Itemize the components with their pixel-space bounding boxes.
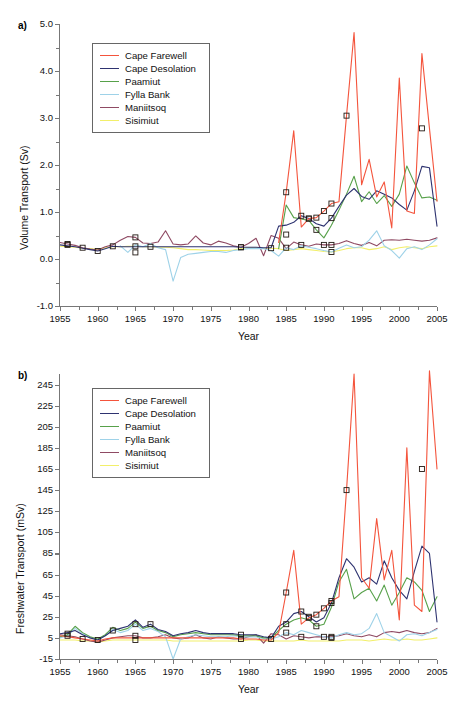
legend-color-swatch-icon <box>100 55 119 56</box>
b-x-tick-label: 2005 <box>416 666 452 677</box>
a-y-tick <box>55 24 59 25</box>
b-x-tick-label: 1995 <box>341 666 383 677</box>
a-x-tick-label: 1955 <box>39 313 81 324</box>
a-y-tick-label: 0.0 <box>12 253 53 264</box>
b-y-tick-label: 165 <box>12 463 53 474</box>
a-x-tick-label: 1965 <box>114 313 156 324</box>
a-y-tick <box>55 165 59 166</box>
a-x-minor-tick <box>267 307 268 310</box>
a-x-tick-label: 1970 <box>152 313 194 324</box>
b-x-minor-tick <box>418 660 419 663</box>
b-y-tick-label: 225 <box>12 400 53 411</box>
b-y-tick <box>55 448 59 449</box>
legend-label: Cape Desolation <box>125 62 196 75</box>
b-x-minor-tick <box>79 660 80 663</box>
observation-marker <box>284 232 289 237</box>
a-x-minor-tick <box>305 307 306 310</box>
b-x-tick <box>362 660 363 664</box>
a-x-tick <box>211 307 212 311</box>
b-x-minor-tick <box>230 660 231 663</box>
b-y-tick <box>55 575 59 576</box>
b-x-minor-tick <box>117 660 118 663</box>
series-line-paamiut <box>60 569 437 639</box>
legend-color-swatch-icon <box>100 400 119 401</box>
legend-label: Cape Farewell <box>125 394 187 407</box>
a-y-axis-line <box>59 24 60 306</box>
b-y-tick <box>55 469 59 470</box>
b-y-tick-label: 145 <box>12 484 53 495</box>
b-y-tick <box>55 511 59 512</box>
b-y-tick-label: 105 <box>12 526 53 537</box>
a-y-tick-label: 4.0 <box>12 65 53 76</box>
a-x-tick <box>135 307 136 311</box>
a-y-tick-label: -1.0 <box>12 300 53 311</box>
legend-label: Cape Desolation <box>125 407 196 420</box>
b-x-minor-tick <box>380 660 381 663</box>
legend-item-cape-desolation[interactable]: Cape Desolation <box>93 62 209 75</box>
b-x-tick <box>437 660 438 664</box>
b-y-tick-label: 245 <box>12 379 53 390</box>
legend-label: Fylla Bank <box>125 433 170 446</box>
legend-item-maniitsoq[interactable]: Maniitsoq <box>93 101 209 114</box>
a-x-minor-tick <box>117 307 118 310</box>
a-y-minor-tick <box>56 95 59 96</box>
b-y-tick-label: 45 <box>12 590 53 601</box>
a-y-tick <box>55 71 59 72</box>
b-x-tick-label: 1970 <box>152 666 194 677</box>
chart-panel-b: b) Freshwater Transport (mSv) Year Cape … <box>0 352 452 703</box>
b-y-tick <box>55 553 59 554</box>
a-y-minor-tick <box>56 283 59 284</box>
legend-label: Maniitsoq <box>125 101 166 114</box>
legend-color-swatch-icon <box>100 439 119 440</box>
a-x-minor-tick <box>418 307 419 310</box>
b-x-minor-tick <box>343 660 344 663</box>
b-x-tick-label: 1975 <box>190 666 232 677</box>
b-y-tick <box>55 406 59 407</box>
legend-item-maniitsoq[interactable]: Maniitsoq <box>93 446 209 459</box>
a-y-minor-tick <box>56 48 59 49</box>
a-y-tick <box>55 306 59 307</box>
a-x-tick-label: 1990 <box>303 313 345 324</box>
b-x-tick <box>286 660 287 664</box>
b-y-tick <box>55 659 59 660</box>
b-y-tick-label: 25 <box>12 611 53 622</box>
a-x-tick-label: 1980 <box>228 313 270 324</box>
b-x-tick <box>249 660 250 664</box>
b-x-tick <box>173 660 174 664</box>
b-x-tick <box>399 660 400 664</box>
legend-item-cape-farewell[interactable]: Cape Farewell <box>93 49 209 62</box>
legend-item-cape-farewell[interactable]: Cape Farewell <box>93 394 209 407</box>
chart-panel-a: a) Volume Transport (Sv) Year Cape Farew… <box>0 0 452 352</box>
b-y-tick-label: -15 <box>12 653 53 664</box>
legend-color-swatch-icon <box>100 413 119 414</box>
legend-color-swatch-icon <box>100 452 119 453</box>
legend-item-fylla-bank[interactable]: Fylla Bank <box>93 88 209 101</box>
legend-item-sisimiut[interactable]: Sisimiut <box>93 114 209 127</box>
b-y-tick <box>55 532 59 533</box>
legend-item-cape-desolation[interactable]: Cape Desolation <box>93 407 209 420</box>
b-y-tick-label: 85 <box>12 547 53 558</box>
b-x-tick-label: 1960 <box>77 666 119 677</box>
b-x-tick-label: 2000 <box>378 666 420 677</box>
b-x-tick-label: 1965 <box>114 666 156 677</box>
a-y-tick <box>55 212 59 213</box>
b-y-tick <box>55 385 59 386</box>
b-y-tick <box>55 490 59 491</box>
legend-color-swatch-icon <box>100 120 119 121</box>
b-x-tick <box>324 660 325 664</box>
a-y-tick-label: 5.0 <box>12 18 53 29</box>
a-x-tick-label: 2000 <box>378 313 420 324</box>
b-y-tick-label: 185 <box>12 442 53 453</box>
series-line-paamiut <box>279 166 437 249</box>
a-x-minor-tick <box>230 307 231 310</box>
legend-item-sisimiut[interactable]: Sisimiut <box>93 459 209 472</box>
b-y-tick-label: 125 <box>12 505 53 516</box>
panel-b-x-axis-label: Year <box>60 683 437 695</box>
legend-item-fylla-bank[interactable]: Fylla Bank <box>93 433 209 446</box>
legend-item-paamiut[interactable]: Paamiut <box>93 420 209 433</box>
b-x-tick <box>211 660 212 664</box>
a-x-tick <box>249 307 250 311</box>
legend-item-paamiut[interactable]: Paamiut <box>93 75 209 88</box>
legend-label: Paamiut <box>125 420 160 433</box>
a-x-tick <box>98 307 99 311</box>
